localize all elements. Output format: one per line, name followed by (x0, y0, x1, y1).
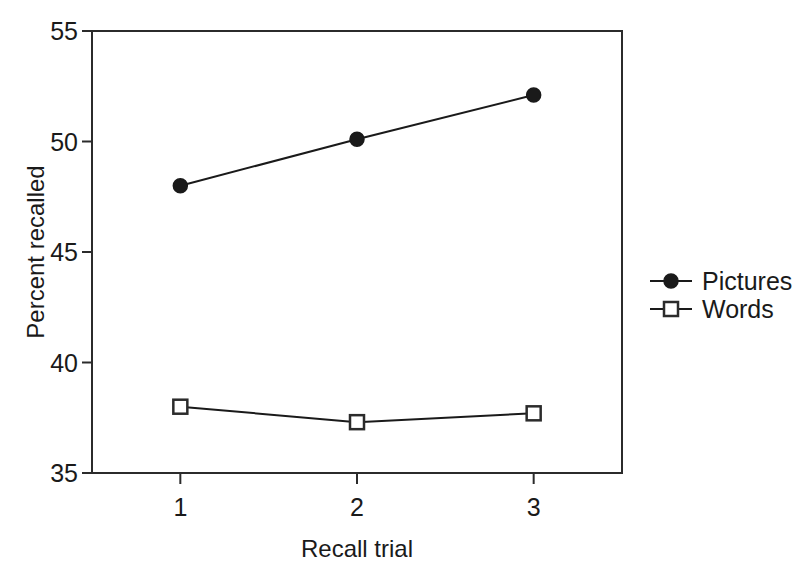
y-tick-label: 35 (30, 459, 78, 488)
data-point-pictures (173, 179, 187, 193)
data-series (173, 88, 540, 429)
x-tick-label: 2 (350, 493, 364, 522)
data-point-pictures (527, 88, 541, 102)
axes (92, 31, 622, 473)
data-point-words (173, 400, 187, 414)
y-tick-label: 40 (30, 348, 78, 377)
y-tick-label: 55 (30, 17, 78, 46)
data-point-words (527, 406, 541, 420)
data-point-words (350, 415, 364, 429)
x-tick-label: 3 (527, 493, 541, 522)
y-tick-label: 50 (30, 127, 78, 156)
plot-border (92, 31, 622, 473)
x-axis-title: Recall trial (301, 535, 413, 563)
x-tick-label: 1 (173, 493, 187, 522)
legend-item-words[interactable]: Words (648, 292, 774, 326)
y-axis-title: Percent recalled (22, 165, 50, 338)
open-square-icon (648, 294, 694, 324)
data-point-pictures (350, 132, 364, 146)
legend-label: Words (702, 295, 774, 324)
